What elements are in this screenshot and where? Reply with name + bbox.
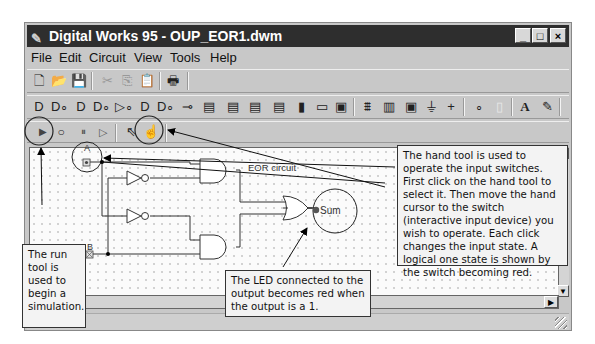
not-gate-bottom[interactable] (127, 209, 149, 223)
hand-tool-callout: The hand tool is used to operate the inp… (397, 145, 568, 266)
input-b-label: B (87, 242, 93, 252)
run-tool-callout: The run tool is used to begin a simulati… (22, 244, 86, 328)
run-tool-highlight (25, 117, 53, 145)
input-switch-b[interactable] (86, 251, 93, 258)
input-a-label: A (84, 143, 90, 153)
and-gate-bottom[interactable] (200, 235, 226, 259)
hand-tool-highlight (135, 116, 163, 144)
led-callout: The LED connected to the output becomes … (225, 270, 371, 317)
not-gate-top[interactable] (127, 171, 149, 185)
sum-label: Sum (320, 205, 341, 216)
